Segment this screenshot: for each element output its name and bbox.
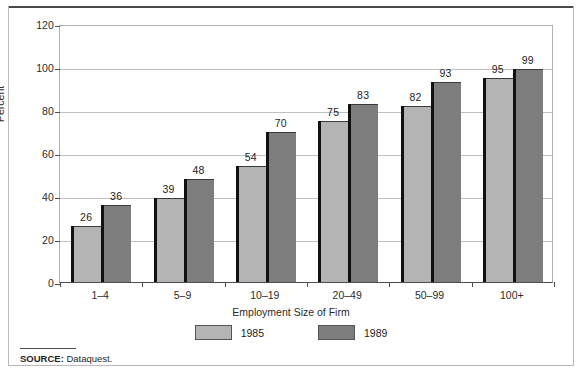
bar: 99 xyxy=(513,69,543,282)
x-category-label: 10–19 xyxy=(224,289,306,301)
y-axis-title: Percent xyxy=(0,86,6,122)
bar-value-label: 99 xyxy=(513,54,543,66)
bar-value-label: 54 xyxy=(236,151,266,163)
x-tick-mark xyxy=(225,282,226,287)
bar-value-label: 93 xyxy=(431,67,461,79)
legend-swatch xyxy=(195,325,232,340)
y-tick-mark xyxy=(55,26,60,27)
bar-body xyxy=(434,82,461,282)
bar-body xyxy=(157,198,184,282)
plot-area: 263639485470758382939599 xyxy=(59,25,553,283)
bar: 82 xyxy=(401,106,431,282)
x-tick-mark xyxy=(554,282,555,287)
source-rule xyxy=(20,348,76,349)
bar-body xyxy=(269,132,296,283)
y-tick-mark xyxy=(55,112,60,113)
legend-swatch xyxy=(318,325,355,340)
chart-legend: 19851989 xyxy=(0,325,582,340)
y-tick-label: 40 xyxy=(42,191,54,203)
x-category-label: 100+ xyxy=(471,289,553,301)
gridline xyxy=(60,198,552,199)
bar-body xyxy=(239,166,266,282)
bar-body xyxy=(516,69,543,282)
source-prefix: SOURCE: xyxy=(20,353,64,364)
source-note: SOURCE: Dataquest. xyxy=(20,353,112,364)
gridline xyxy=(60,69,552,70)
bar: 75 xyxy=(318,121,348,282)
y-tick-label: 120 xyxy=(36,19,54,31)
y-tick-label: 60 xyxy=(42,148,54,160)
bar-value-label: 48 xyxy=(184,164,214,176)
bar-value-label: 95 xyxy=(483,63,513,75)
bar: 39 xyxy=(154,198,184,282)
y-tick-label: 80 xyxy=(42,105,54,117)
x-tick-mark xyxy=(307,282,308,287)
x-category-label: 20–49 xyxy=(306,289,388,301)
chart-figure: Percent 020406080100120 2636394854707583… xyxy=(0,0,582,372)
bar-value-label: 82 xyxy=(401,91,431,103)
bar-body xyxy=(74,226,101,282)
x-category-label: 50–99 xyxy=(388,289,470,301)
bar-value-label: 70 xyxy=(266,117,296,129)
bar-body xyxy=(351,104,378,282)
bar: 83 xyxy=(348,104,378,282)
x-tick-mark xyxy=(389,282,390,287)
bar: 36 xyxy=(101,205,131,282)
y-tick-label: 100 xyxy=(36,62,54,74)
legend-item[interactable]: 1989 xyxy=(318,325,387,340)
bar-value-label: 83 xyxy=(348,89,378,101)
bar-body xyxy=(404,106,431,282)
bar: 48 xyxy=(184,179,214,282)
bar-value-label: 39 xyxy=(154,183,184,195)
legend-label: 1985 xyxy=(241,327,264,339)
bar-value-label: 36 xyxy=(101,190,131,202)
y-tick-mark xyxy=(55,241,60,242)
x-tick-mark xyxy=(472,282,473,287)
bar-value-label: 26 xyxy=(71,211,101,223)
x-tick-mark xyxy=(60,282,61,287)
y-tick-mark xyxy=(55,155,60,156)
gridline xyxy=(60,112,552,113)
bar-body xyxy=(486,78,513,282)
y-tick-mark xyxy=(55,69,60,70)
x-tick-mark xyxy=(142,282,143,287)
source-text: Dataquest. xyxy=(66,353,112,364)
bar-body xyxy=(104,205,131,282)
legend-label: 1989 xyxy=(364,327,387,339)
bar-value-label: 75 xyxy=(318,106,348,118)
legend-item[interactable]: 1985 xyxy=(195,325,264,340)
bar: 26 xyxy=(71,226,101,282)
y-tick-mark xyxy=(55,198,60,199)
gridline xyxy=(60,155,552,156)
x-category-label: 5–9 xyxy=(141,289,223,301)
y-tick-label: 0 xyxy=(48,277,54,289)
bar: 54 xyxy=(236,166,266,282)
bar-body xyxy=(321,121,348,282)
x-axis-title: Employment Size of Firm xyxy=(0,306,582,318)
bar: 70 xyxy=(266,132,296,283)
bar: 95 xyxy=(483,78,513,282)
y-tick-label: 20 xyxy=(42,234,54,246)
x-category-label: 1–4 xyxy=(59,289,141,301)
gridline xyxy=(60,241,552,242)
bar-body xyxy=(187,179,214,282)
bar: 93 xyxy=(431,82,461,282)
